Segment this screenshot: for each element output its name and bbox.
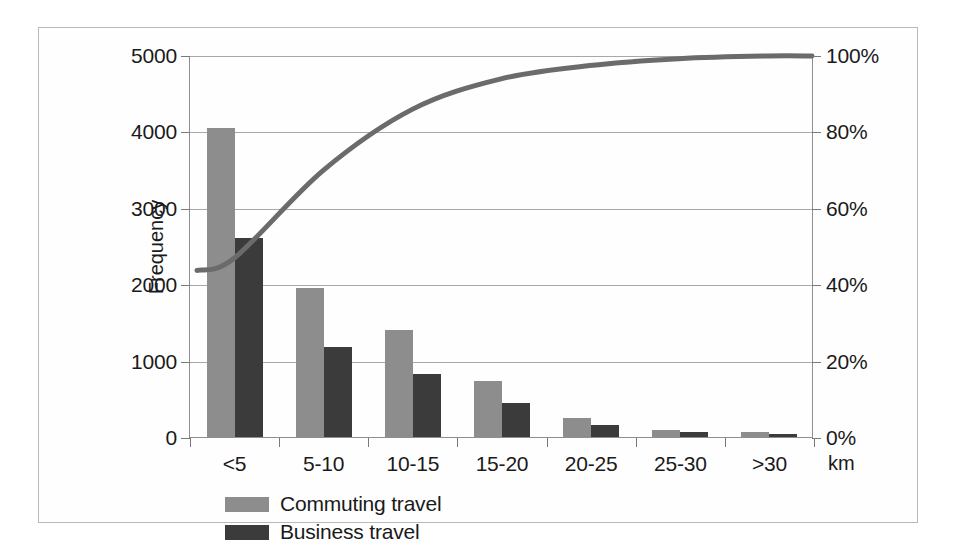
x-axis-tick <box>368 438 369 447</box>
x-axis-tick <box>547 438 548 447</box>
y-axis-tick <box>181 362 190 363</box>
bar <box>385 330 413 437</box>
y-axis-tick <box>181 209 190 210</box>
x-axis-tick <box>814 438 815 447</box>
bar <box>591 425 619 437</box>
bar-group <box>385 56 441 437</box>
bar <box>652 430 680 437</box>
y-axis-tick <box>181 56 190 57</box>
bar <box>563 418 591 437</box>
chart-frame: 010002000300040005000 0%20%40%60%80%100%… <box>38 27 918 523</box>
x-axis-unit-label: km <box>828 452 855 475</box>
x-axis-tick <box>279 438 280 447</box>
y2-axis-tick <box>812 362 821 363</box>
x-axis-tick-label: 5-10 <box>303 452 344 476</box>
x-axis-tick-label: 15-20 <box>476 452 529 476</box>
y2-axis-tick-label: 100% <box>826 44 879 68</box>
y-axis-tick-label: 5000 <box>131 44 177 68</box>
bar-group <box>652 56 708 437</box>
x-axis-tick-label: 20-25 <box>565 452 618 476</box>
y-axis-tick-label: 0 <box>166 426 177 450</box>
x-axis-tick-label: 10-15 <box>386 452 439 476</box>
x-axis-tick <box>636 438 637 447</box>
bar <box>474 381 502 437</box>
y-axis-tick <box>181 285 190 286</box>
bar <box>207 128 235 437</box>
x-axis-tick <box>190 438 191 447</box>
y2-axis-tick-label: 0% <box>826 426 856 450</box>
legend-swatch <box>225 497 269 512</box>
bar <box>296 288 324 437</box>
bar-group <box>474 56 530 437</box>
y2-axis-tick-label: 80% <box>826 120 867 144</box>
bar-group <box>563 56 619 437</box>
x-axis-tick <box>725 438 726 447</box>
legend-label: Commuting travel <box>280 492 441 516</box>
y-axis-title: Frequency <box>145 199 168 294</box>
x-axis-tick-label: >30 <box>752 452 787 476</box>
bar <box>235 238 263 437</box>
legend-swatch <box>225 525 269 540</box>
y-axis-tick <box>181 132 190 133</box>
bar <box>769 434 797 437</box>
bar <box>324 347 352 437</box>
x-axis-tick-label: <5 <box>223 452 247 476</box>
bar <box>413 374 441 437</box>
bar <box>680 432 708 437</box>
y2-axis-tick <box>812 132 821 133</box>
y2-axis-tick-label: 60% <box>826 197 867 221</box>
bar-group <box>296 56 352 437</box>
x-axis-tick-label: 25-30 <box>654 452 707 476</box>
y-axis-tick-label: 4000 <box>131 120 177 144</box>
legend-label: Business travel <box>280 520 419 544</box>
bar <box>502 403 530 437</box>
chart-legend: Commuting travelBusiness travel <box>225 490 441 546</box>
y2-axis-tick-label: 20% <box>826 350 867 374</box>
bar-group <box>741 56 797 437</box>
y2-axis-tick <box>812 209 821 210</box>
y-axis-tick-label: 1000 <box>131 350 177 374</box>
bar <box>741 432 769 437</box>
legend-item: Business travel <box>225 518 441 546</box>
plot-area: 010002000300040005000 0%20%40%60%80%100%… <box>189 56 813 438</box>
legend-item: Commuting travel <box>225 490 441 518</box>
y2-axis-tick <box>812 285 821 286</box>
y-axis-tick <box>181 438 190 439</box>
bar-group <box>207 56 263 437</box>
y2-axis-tick <box>812 56 821 57</box>
x-axis-tick <box>457 438 458 447</box>
y2-axis-tick-label: 40% <box>826 273 867 297</box>
